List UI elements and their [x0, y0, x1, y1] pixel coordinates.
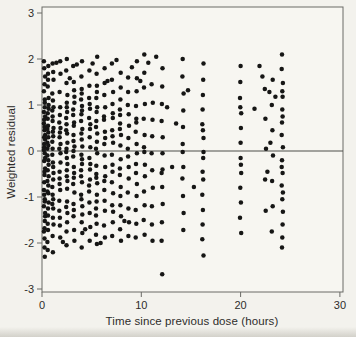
data-point	[201, 77, 206, 82]
data-point	[126, 136, 131, 141]
data-point	[150, 168, 155, 173]
data-point	[133, 129, 138, 134]
data-point	[174, 121, 179, 126]
data-point	[64, 229, 69, 234]
data-point	[58, 126, 63, 131]
data-point	[88, 127, 93, 132]
data-point	[46, 174, 51, 179]
data-point	[51, 206, 56, 211]
data-point	[88, 162, 93, 167]
data-point	[118, 71, 123, 76]
data-point	[110, 102, 115, 107]
data-point	[50, 140, 55, 145]
data-point	[280, 94, 285, 99]
data-point	[200, 192, 205, 197]
data-point	[87, 211, 92, 216]
data-point	[122, 219, 127, 224]
data-point	[192, 185, 197, 190]
data-point	[80, 157, 85, 162]
data-point	[80, 144, 85, 149]
data-point	[160, 272, 165, 277]
data-point	[160, 151, 165, 156]
data-point	[65, 162, 70, 167]
data-point	[268, 140, 273, 145]
data-point	[90, 61, 95, 66]
data-point	[45, 111, 50, 116]
data-point	[58, 215, 63, 220]
data-point	[57, 209, 62, 214]
data-point	[201, 150, 206, 155]
data-point	[71, 214, 76, 219]
data-point	[181, 108, 186, 113]
data-point	[238, 80, 243, 85]
data-point	[72, 165, 77, 170]
data-point	[71, 107, 76, 112]
data-point	[50, 114, 55, 119]
data-point	[102, 188, 107, 193]
data-point	[64, 116, 69, 121]
data-point	[79, 119, 84, 124]
data-point	[257, 64, 262, 69]
data-point	[102, 153, 107, 158]
data-point	[79, 220, 84, 225]
data-point	[57, 182, 62, 187]
data-point	[181, 91, 186, 96]
data-point	[42, 89, 47, 94]
data-point	[65, 220, 70, 225]
x-tick-label: 20	[234, 299, 246, 311]
data-point	[263, 209, 268, 214]
data-point	[65, 100, 70, 105]
data-point	[58, 130, 63, 135]
data-point	[160, 66, 165, 71]
data-point	[279, 165, 284, 170]
data-point	[111, 111, 116, 116]
data-point	[111, 191, 116, 196]
data-point	[142, 85, 147, 90]
data-point	[58, 151, 63, 156]
data-point	[46, 163, 51, 168]
data-point	[95, 90, 100, 95]
data-point	[239, 126, 244, 131]
y-tick-label: -2	[24, 237, 34, 249]
data-point	[114, 58, 119, 63]
data-point	[154, 54, 159, 59]
data-point	[64, 243, 69, 248]
data-point	[71, 113, 76, 118]
data-point	[181, 125, 186, 130]
data-point	[50, 185, 55, 190]
data-point	[103, 136, 108, 141]
data-point	[79, 74, 84, 79]
data-point	[51, 165, 56, 170]
data-point	[126, 112, 131, 117]
data-point	[43, 255, 48, 260]
data-point	[51, 160, 56, 165]
data-point	[42, 66, 47, 71]
data-point	[238, 64, 243, 69]
data-point	[134, 120, 139, 125]
data-point	[111, 90, 116, 95]
data-point	[279, 183, 284, 188]
data-point	[110, 134, 115, 139]
data-point	[94, 125, 99, 130]
data-point	[94, 163, 99, 168]
data-point	[126, 154, 131, 159]
data-point	[160, 102, 165, 107]
data-point	[280, 235, 285, 240]
data-point	[57, 198, 62, 203]
data-point	[181, 165, 186, 170]
data-point	[46, 71, 51, 76]
data-point	[72, 175, 77, 180]
data-point	[126, 146, 131, 151]
data-point	[160, 185, 165, 190]
y-ticks: 3210-1-2-3	[24, 7, 42, 295]
data-point	[271, 153, 276, 158]
data-point	[72, 238, 77, 243]
data-point	[58, 160, 63, 165]
data-point	[135, 182, 140, 187]
x-ticks: 0102030	[39, 292, 346, 311]
data-point	[95, 140, 100, 145]
data-point	[118, 127, 123, 132]
data-point	[95, 181, 100, 186]
data-point	[46, 77, 51, 82]
data-point	[51, 222, 56, 227]
